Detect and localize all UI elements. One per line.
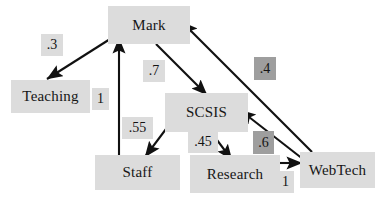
edge-weight-webtech-scsis: .6 (253, 131, 274, 154)
edge-weight-scsis-research: .45 (188, 131, 218, 153)
edge-weight-research-webtech: 1 (277, 171, 294, 193)
edge-weight-scsis-staff: .55 (122, 117, 153, 139)
edge-weight-mark-scsis: .7 (143, 60, 165, 82)
edge-weight-staff-mark: 1 (92, 88, 109, 110)
node-mark[interactable]: Mark (108, 6, 190, 44)
node-label: SCSIS (186, 105, 227, 120)
node-label: Research (207, 167, 264, 182)
node-staff[interactable]: Staff (95, 155, 180, 190)
node-webtech[interactable]: WebTech (300, 152, 375, 188)
node-label: Teaching (22, 89, 78, 104)
node-teaching[interactable]: Teaching (11, 80, 90, 113)
node-label: Staff (123, 165, 153, 180)
graph-diagram: MarkTeachingSCSISStaffResearchWebTech .3… (0, 0, 383, 203)
edge-weight-mark-teaching: .3 (41, 34, 63, 56)
edge-weight-webtech-mark: .4 (254, 57, 276, 80)
node-scsis[interactable]: SCSIS (165, 93, 248, 132)
node-label: WebTech (309, 163, 366, 178)
node-research[interactable]: Research (190, 155, 280, 193)
node-label: Mark (132, 18, 165, 33)
